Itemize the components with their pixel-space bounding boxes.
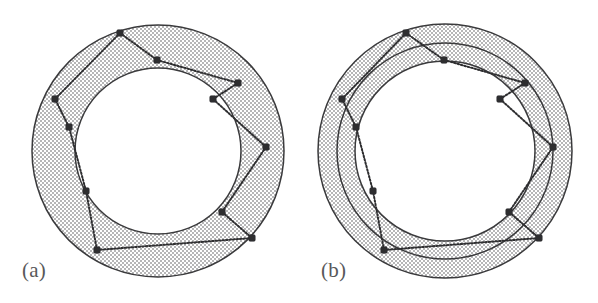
inner-annulus-band: [337, 43, 553, 259]
graph-node: [117, 30, 123, 36]
graph-node: [235, 80, 241, 86]
graph-node: [550, 144, 556, 150]
graph-node: [353, 124, 359, 130]
panel-a: (a): [0, 0, 299, 303]
graph-node: [339, 96, 345, 102]
graph-node: [263, 144, 269, 150]
figure-root: (a) (b): [0, 0, 598, 303]
panel-b: (b): [299, 0, 598, 303]
panel-b-caption: (b): [321, 258, 346, 283]
graph-node: [249, 235, 255, 241]
graph-node: [381, 247, 387, 253]
graph-node: [536, 235, 542, 241]
graph-node: [370, 188, 376, 194]
panel-a-caption: (a): [22, 258, 46, 283]
graph-node: [219, 209, 225, 215]
graph-node: [441, 57, 447, 63]
graph-node: [154, 57, 160, 63]
graph-node: [506, 209, 512, 215]
graph-node: [83, 188, 89, 194]
graph-node: [52, 96, 58, 102]
graph-node: [66, 124, 72, 130]
graph-node: [210, 96, 216, 102]
graph-node: [522, 80, 528, 86]
graph-node: [497, 96, 503, 102]
inner-boundary-circle: [75, 68, 241, 234]
graph-node: [94, 247, 100, 253]
graph-node: [403, 30, 409, 36]
